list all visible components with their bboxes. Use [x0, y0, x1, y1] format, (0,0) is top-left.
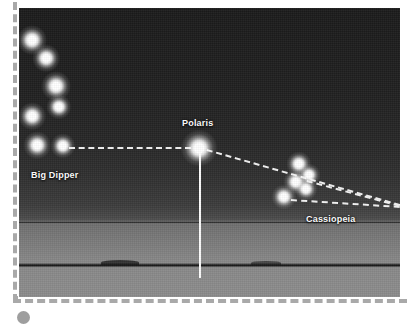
treeline-bump-left [101, 260, 139, 265]
star-alioth [19, 102, 46, 130]
frame-dashed-left [13, 2, 17, 302]
treeline-bump-right [251, 261, 281, 265]
label-polaris: Polaris [182, 118, 213, 128]
star-mizar [23, 131, 51, 159]
cropped-badge-icon [17, 311, 30, 324]
star-alkaid [50, 133, 75, 158]
treeline-silhouette [19, 263, 400, 267]
star-merak [32, 44, 60, 72]
pointer-line-dipper-to-polaris [69, 147, 191, 149]
frame-dashed-bottom [13, 299, 407, 303]
label-big-dipper: Big Dipper [31, 170, 79, 180]
star-schedar [295, 178, 318, 201]
star-megrez [46, 94, 71, 119]
night-sky-photo: Big Dipper Polaris Cassiopeia [19, 8, 400, 297]
star-polaris [181, 130, 218, 167]
polaris-meridian-line [199, 148, 201, 278]
label-cassiopeia: Cassiopeia [306, 214, 356, 224]
frame-corner-stub [13, 296, 18, 301]
star-caph [271, 184, 296, 209]
